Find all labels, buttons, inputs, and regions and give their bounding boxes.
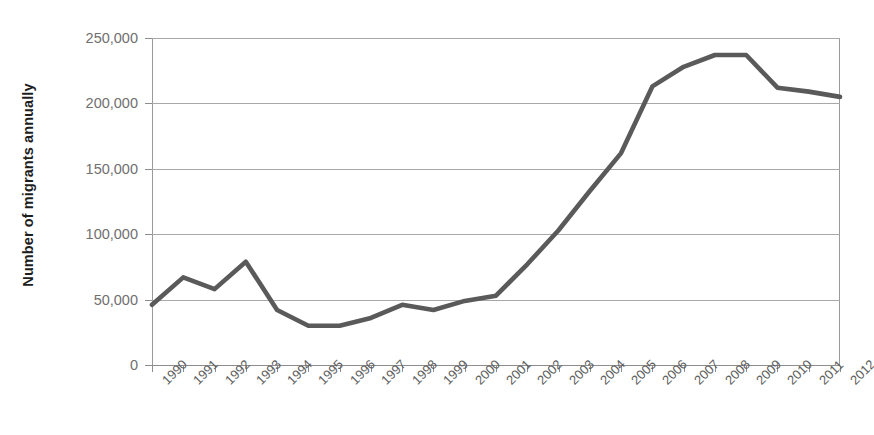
x-axis-tick-label: 1990 [159,377,170,388]
y-axis-tick [145,103,152,104]
y-axis-tick [145,38,152,39]
plot-area [152,38,840,365]
y-axis-tick-label: 0 [50,358,138,373]
y-axis-tick-label: 50,000 [50,292,138,307]
x-axis-tick-label: 2000 [472,377,483,388]
gridline [152,103,840,104]
y-axis-title-text: Number of migrants annually [20,83,36,286]
x-axis-tick-label: 2002 [534,377,545,388]
y-axis-tick-label: 150,000 [50,162,138,177]
y-axis-tick-label: 250,000 [50,31,138,46]
y-axis-tick [145,234,152,235]
x-axis-tick-label: 1999 [440,377,451,388]
y-axis-tick [145,365,152,366]
gridline [152,169,840,170]
gridline [152,38,840,39]
plot-border-right [839,38,840,365]
x-axis-tick-label: 2009 [753,377,764,388]
y-axis-tick [145,169,152,170]
y-axis-tick [145,300,152,301]
x-axis-tick-label: 2007 [691,377,702,388]
x-axis-tick [152,366,153,372]
migration-line-chart: Number of migrants annually 050,000100,0… [0,0,874,435]
x-axis-tick-label: 2003 [566,377,577,388]
gridline [152,234,840,235]
y-axis-tick-label: 200,000 [50,96,138,111]
x-axis-tick-label: 1992 [222,377,233,388]
x-axis-tick-label: 1996 [347,377,358,388]
x-axis-tick-label: 2012 [847,377,858,388]
x-axis-tick-label: 2010 [784,377,795,388]
x-axis-tick-label: 1991 [190,377,201,388]
x-axis-tick-label: 1993 [253,377,264,388]
plot-border-left [152,38,153,365]
x-axis-tick-label: 1995 [315,377,326,388]
x-axis-tick-label: 2001 [503,377,514,388]
x-axis-tick-label: 1994 [284,377,295,388]
y-axis-tick-labels: 050,000100,000150,000200,000250,000 [50,0,138,435]
x-axis-tick-label: 2008 [722,377,733,388]
x-axis-tick-label: 1997 [378,377,389,388]
y-axis-tick-label: 100,000 [50,227,138,242]
x-axis-tick-label: 2005 [628,377,639,388]
x-axis-tick-label: 2006 [659,377,670,388]
x-axis-tick-label: 2011 [816,377,827,388]
x-axis-tick-label: 1998 [409,377,420,388]
gridline [152,300,840,301]
y-axis-title: Number of migrants annually [0,0,56,370]
x-axis-tick-label: 2004 [597,377,608,388]
